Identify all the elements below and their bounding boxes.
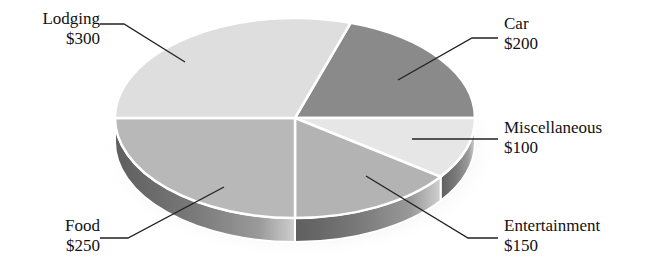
- label-misc-name: Miscellaneous: [504, 118, 602, 138]
- label-entertainment-name: Entertainment: [504, 216, 600, 236]
- label-misc-value: $100: [504, 138, 602, 158]
- label-entertainment-value: $150: [504, 236, 600, 256]
- label-car: Car $200: [504, 14, 538, 54]
- label-food: Food $250: [14, 216, 100, 256]
- label-lodging: Lodging $300: [14, 9, 100, 49]
- label-lodging-name: Lodging: [14, 9, 100, 29]
- label-entertainment: Entertainment $150: [504, 216, 600, 256]
- label-miscellaneous: Miscellaneous $100: [504, 118, 602, 158]
- label-food-value: $250: [14, 236, 100, 256]
- label-food-name: Food: [14, 216, 100, 236]
- label-car-name: Car: [504, 14, 538, 34]
- label-lodging-value: $300: [14, 29, 100, 49]
- label-car-value: $200: [504, 34, 538, 54]
- pie-slices: [115, 18, 475, 218]
